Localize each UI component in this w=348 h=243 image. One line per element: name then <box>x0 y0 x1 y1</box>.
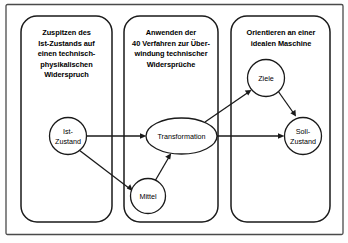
node-soll-zustand-label-line-1: Soll- <box>296 127 311 136</box>
node-ist-zustand[interactable]: Ist- Zustand <box>50 118 87 155</box>
node-soll-zustand-label-line-2: Zustand <box>290 137 316 146</box>
phase-title-2-line-2: 40 Verfahren zur Über- <box>132 39 210 48</box>
phase-title-2-line-4: Widersprüche <box>147 60 196 69</box>
phase-title-3-line-1: Orientieren an einer <box>247 28 316 37</box>
phase-title-2-line-3: windung technischer <box>134 49 208 58</box>
node-transformation-label: Transformation <box>157 132 205 141</box>
diagram-canvas: Zuspitzen des Ist-Zustands auf einen tec… <box>0 0 348 243</box>
node-mittel[interactable]: Mittel <box>131 179 166 214</box>
phase-title-1-line-3: einen technisch- <box>38 49 96 58</box>
phase-title-1-line-4: physikalischen <box>40 60 93 69</box>
node-ist-zustand-label-line-2: Zustand <box>55 137 81 146</box>
node-mittel-label: Mittel <box>139 192 157 201</box>
node-ist-zustand-label-line-1: Ist- <box>63 127 74 136</box>
node-transformation[interactable]: Transformation <box>146 118 217 154</box>
phase-title-3-line-2: idealen Maschine <box>251 39 311 48</box>
node-ziele-label: Ziele <box>258 74 274 83</box>
phase-title-1-line-1: Zuspitzen des <box>42 28 91 37</box>
phase-title-1-line-2: Ist-Zustands auf <box>38 39 95 48</box>
node-ziele[interactable]: Ziele <box>248 60 285 97</box>
phase-title-1-line-5: Widerspruch <box>44 70 89 79</box>
node-soll-zustand[interactable]: Soll- Zustand <box>285 118 322 155</box>
phase-title-2-line-1: Anwenden der <box>146 28 196 37</box>
